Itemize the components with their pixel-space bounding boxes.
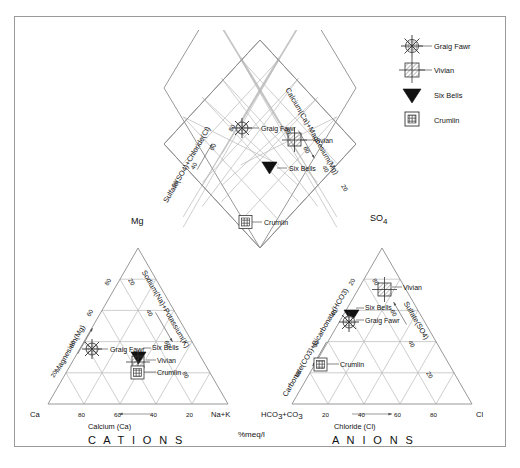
svg-text:60: 60 (302, 145, 312, 155)
svg-text:HCO3+CO3: HCO3+CO3 (261, 410, 303, 421)
cations-heading: C A T I O N S (88, 434, 185, 446)
piper-diagram-svg: 20 40 60 80 20 40 60 80 20 40 60 80 20 4… (0, 0, 520, 468)
legend-label-six-bells: Six Bells (434, 91, 463, 100)
datalabel-cation-crumlin: Crumlin (157, 369, 181, 376)
anion-left-axis: Carbonate(CO3)+Bicarbonate(HCO3) (280, 287, 354, 401)
svg-text:40: 40 (407, 339, 417, 349)
corner-cl: Cl (476, 410, 483, 419)
svg-text:20: 20 (322, 411, 329, 418)
svg-text:40: 40 (358, 411, 365, 418)
svg-text:80: 80 (78, 411, 85, 418)
anions-heading: A N I O N S (332, 434, 415, 446)
anion-grid (310, 279, 454, 404)
axis-so4cl: Sulfate(SO4)+Chloride(Cl) (161, 125, 212, 204)
axis-sulfate: Sulfate(SO4) (402, 300, 431, 342)
datalabel-cation-vivian: Vivian (157, 357, 176, 364)
cation-bottom-ticks: 80 60 40 20 (78, 411, 193, 418)
svg-text:20: 20 (347, 277, 357, 287)
svg-text:40: 40 (150, 411, 157, 418)
legend-item-vivian[interactable]: Vivian (399, 57, 454, 83)
svg-text:20: 20 (127, 277, 137, 287)
svg-text:20: 20 (186, 411, 193, 418)
svg-text:80: 80 (103, 277, 113, 287)
legend-item-graig-fawr[interactable]: Graig Fawr (401, 35, 471, 57)
axis-chloride: Chloride (Cl) (334, 422, 375, 431)
corner-so4: SO4 (370, 213, 388, 226)
datalabel-vivian: Vivian (314, 137, 333, 144)
piper-diagram-page: 20 40 60 80 20 40 60 80 20 40 60 80 20 4… (0, 0, 520, 468)
datalabel-anion-six-bells: Six Bells (365, 304, 392, 311)
legend-label-vivian: Vivian (434, 66, 454, 75)
legend: Graig Fawr Vivian Six Bells Crumlin (399, 35, 471, 126)
axis-sodium: Sodium(Na)+Potassium(K) (140, 269, 192, 350)
cation-triangle-outline (48, 248, 228, 404)
legend-item-six-bells[interactable]: Six Bells (403, 89, 463, 103)
plot-frame (15, 17, 506, 447)
datapoint-diamond-crumlin[interactable]: Crumlin (239, 216, 288, 229)
datalabel-graig-fawr: Graig Fawr (261, 125, 296, 133)
datalabel-anion-graig-fawr: Graig Fawr (365, 317, 400, 325)
svg-text:20: 20 (340, 183, 350, 193)
anion-bottom-ticks: 20 40 60 80 (322, 411, 437, 418)
datalabel-six-bells: Six Bells (289, 165, 316, 172)
svg-text:60: 60 (114, 411, 121, 418)
axis-calcium: Calcium (Ca) (88, 422, 131, 431)
datapoint-cation-crumlin[interactable]: Crumlin (131, 366, 181, 379)
datalabel-crumlin: Crumlin (264, 219, 288, 226)
legend-label-crumlin: Crumlin (434, 116, 459, 125)
svg-text:20: 20 (425, 370, 435, 380)
corner-mg: Mg (131, 216, 144, 226)
svg-text:60: 60 (394, 411, 401, 418)
meq-label: %meq/l (238, 430, 265, 439)
datalabel-cation-six-bells: Six Bells (152, 344, 179, 351)
corner-hco3: HCO3+CO3 (261, 410, 303, 421)
svg-text:80: 80 (430, 411, 437, 418)
diamond-grid (183, 0, 337, 217)
svg-text:80: 80 (181, 370, 191, 380)
corner-ca: Ca (30, 410, 40, 419)
datalabel-anion-vivian: Vivian (403, 284, 422, 291)
svg-text:60: 60 (85, 308, 95, 318)
legend-item-crumlin[interactable]: Crumlin (405, 112, 459, 126)
datalabel-anion-crumlin: Crumlin (340, 361, 364, 368)
legend-label-graig-fawr: Graig Fawr (434, 42, 471, 51)
datapoint-anion-crumlin[interactable]: Crumlin (314, 358, 364, 371)
svg-text:60: 60 (208, 142, 218, 152)
svg-text:40: 40 (145, 308, 155, 318)
svg-text:SO4: SO4 (370, 213, 388, 226)
corner-nak: Na+K (211, 410, 230, 419)
